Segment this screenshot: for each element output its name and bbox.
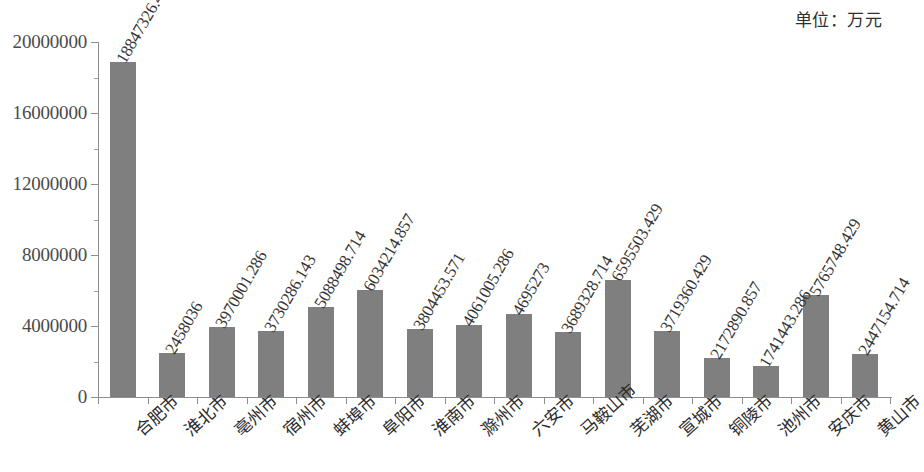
x-tick-mark [148, 397, 149, 404]
y-tick-minor-mark [94, 78, 98, 79]
x-category-label: 六安市 [524, 422, 541, 441]
y-tick-mark [91, 397, 98, 398]
bar[interactable] [555, 332, 581, 397]
y-tick-mark [91, 326, 98, 327]
x-tick-mark [593, 397, 594, 404]
y-tick-label: 8000000 [22, 244, 87, 266]
bar[interactable] [852, 354, 878, 397]
y-tick-label: 20000000 [13, 31, 87, 53]
bar-value-label: 2172890.857 [706, 279, 766, 363]
bar[interactable] [654, 331, 680, 397]
x-tick-mark [742, 397, 743, 404]
y-tick-minor-mark [94, 362, 98, 363]
x-tick-mark [197, 397, 198, 404]
bar-value-label: 6595503.429 [607, 200, 667, 284]
x-category-label: 合肥市 [128, 422, 145, 441]
bar[interactable] [407, 329, 433, 397]
x-category-label: 铜陵市 [722, 422, 739, 441]
bar-value-label: 18847326.43 [112, 0, 172, 67]
bar-value-label: 4695273 [508, 259, 554, 319]
x-category-label: 池州市 [772, 422, 789, 441]
bar-value-label: 2458036 [162, 299, 208, 359]
x-tick-mark [247, 397, 248, 404]
x-tick-mark [296, 397, 297, 404]
bar[interactable] [110, 62, 136, 397]
bar[interactable] [308, 307, 334, 397]
bar[interactable] [159, 353, 185, 397]
bar-value-label: 3719360.429 [657, 252, 717, 336]
bar[interactable] [258, 331, 284, 397]
x-tick-mark [445, 397, 446, 404]
bar-value-label: 3970001.286 [211, 247, 271, 331]
x-tick-mark [494, 397, 495, 404]
x-tick-mark [841, 397, 842, 404]
y-tick-mark [91, 42, 98, 43]
bar[interactable] [456, 325, 482, 397]
x-category-label: 芜湖市 [623, 422, 640, 441]
y-tick-label: 12000000 [13, 173, 87, 195]
y-tick-mark [91, 255, 98, 256]
x-category-label: 黄山市 [871, 422, 888, 441]
bar[interactable] [753, 366, 779, 397]
x-category-label: 安庆市 [821, 422, 838, 441]
x-tick-mark [98, 397, 99, 404]
y-tick-minor-mark [94, 220, 98, 221]
bar-value-label: 2447154.714 [855, 274, 915, 358]
bar-value-label: 6034214.857 [360, 210, 420, 294]
y-tick-label: 0 [78, 386, 87, 408]
plot-area: 040000008000000120000001600000020000000 … [98, 42, 890, 397]
y-tick-label: 16000000 [13, 102, 87, 124]
y-tick-mark [91, 113, 98, 114]
x-tick-mark [395, 397, 396, 404]
x-tick-mark [346, 397, 347, 404]
bar-value-label: 3804453.571 [409, 250, 469, 334]
x-category-label: 亳州市 [227, 422, 244, 441]
y-tick-mark [91, 184, 98, 185]
bar[interactable] [506, 314, 532, 397]
x-category-label: 蚌埠市 [326, 422, 343, 441]
x-tick-mark [544, 397, 545, 404]
y-tick-label: 4000000 [22, 315, 87, 337]
x-tick-mark [791, 397, 792, 404]
bar[interactable] [209, 327, 235, 397]
y-tick-minor-mark [94, 149, 98, 150]
y-tick-minor-mark [94, 291, 98, 292]
x-category-label: 宣城市 [673, 422, 690, 441]
x-tick-mark [643, 397, 644, 404]
bar[interactable] [357, 290, 383, 397]
x-category-label: 阜阳市 [376, 422, 393, 441]
unit-note: 单位：万元 [795, 6, 883, 31]
x-tick-mark [890, 397, 891, 404]
x-category-label: 淮南市 [425, 422, 442, 441]
x-category-label: 马鞍山市 [574, 422, 591, 441]
x-tick-mark [692, 397, 693, 404]
x-category-label: 滁州市 [475, 422, 492, 441]
x-category-label: 淮北市 [178, 422, 195, 441]
bar[interactable] [704, 358, 730, 397]
bar-value-label: 5765748.429 [805, 215, 865, 299]
x-category-label: 宿州市 [277, 422, 294, 441]
